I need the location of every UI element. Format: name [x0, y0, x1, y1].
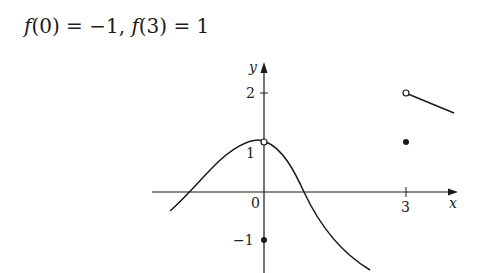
- y-tick-label-1: 1: [246, 145, 255, 161]
- x-axis-label: x: [449, 195, 457, 211]
- y-tick-label-neg1: −1: [233, 232, 254, 248]
- open-point-0-1: [261, 139, 267, 145]
- y-tick-label-2: 2: [246, 85, 255, 101]
- function-graph: y 2 1 0 −1 3 x: [0, 0, 484, 273]
- y-axis-arrow-icon: [261, 62, 268, 73]
- filled-point-3-1: [403, 139, 409, 145]
- function-curve-left: [170, 140, 370, 270]
- x-tick-label-3: 3: [401, 199, 410, 215]
- function-curve-right: [408, 94, 454, 113]
- open-point-3-2: [403, 90, 409, 96]
- filled-point-0-neg1: [261, 237, 267, 243]
- origin-label: 0: [251, 195, 260, 211]
- y-axis-label: y: [248, 59, 258, 75]
